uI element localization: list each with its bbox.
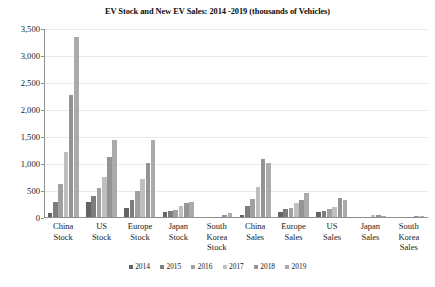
bars-layer — [44, 29, 428, 218]
legend-item[interactable]: 2017 — [223, 262, 244, 271]
legend-label: 2015 — [166, 262, 181, 271]
plot-area: 05001,0001,5002,0002,5003,0003,500 — [44, 29, 428, 218]
y-tick-mark — [41, 218, 44, 219]
x-axis-tick-label: USSales — [313, 221, 351, 242]
legend-swatch-icon — [191, 265, 195, 269]
legend-item[interactable]: 2014 — [129, 262, 150, 271]
bar — [250, 199, 255, 218]
x-axis-tick-label: SouthKoreaStock — [198, 221, 236, 253]
bar — [146, 163, 151, 218]
legend-item[interactable]: 2016 — [191, 262, 212, 271]
y-axis-tick-label: 0 — [36, 213, 40, 223]
bar — [151, 140, 156, 218]
bar — [135, 191, 140, 218]
legend-label: 2014 — [135, 262, 150, 271]
legend-swatch-icon — [223, 265, 227, 269]
bar — [304, 193, 309, 218]
legend-item[interactable]: 2015 — [160, 262, 181, 271]
bar — [53, 202, 58, 218]
y-axis-tick-label: 500 — [27, 186, 40, 196]
bar — [97, 188, 102, 219]
bar — [107, 157, 112, 218]
chart-container: EV Stock and New EV Sales: 2014 -2019 (t… — [0, 0, 435, 287]
bar-group — [313, 29, 351, 218]
y-axis-tick-label: 3,500 — [21, 24, 40, 34]
bar — [91, 196, 96, 218]
bar-group — [159, 29, 197, 218]
legend-swatch-icon — [160, 265, 164, 269]
bar-group — [121, 29, 159, 218]
x-axis-tick-label: USStock — [82, 221, 120, 242]
bar — [58, 184, 63, 218]
y-axis-tick-label: 1,500 — [21, 132, 40, 142]
x-axis-tick-label: ChinaStock — [44, 221, 82, 242]
x-axis-labels: ChinaStockUSStockEuropeStockJapanStockSo… — [44, 221, 428, 266]
y-axis-tick-label: 2,500 — [21, 78, 40, 88]
bar-group — [351, 29, 389, 218]
legend-label: 2018 — [260, 262, 275, 271]
bar — [256, 187, 261, 218]
legend-swatch-icon — [285, 265, 289, 269]
bar — [189, 202, 194, 218]
bar — [184, 203, 189, 218]
bar — [86, 202, 91, 218]
x-axis-line — [44, 217, 428, 218]
bar — [69, 95, 74, 218]
legend-label: 2016 — [198, 262, 213, 271]
legend-item[interactable]: 2018 — [254, 262, 275, 271]
bar-group — [82, 29, 120, 218]
bar-group — [236, 29, 274, 218]
y-axis-tick-label: 3,000 — [21, 51, 40, 61]
chart-legend: 201420152016201720182019 — [0, 262, 435, 271]
x-axis-tick-label: JapanSales — [351, 221, 389, 242]
legend-swatch-icon — [129, 265, 133, 269]
y-axis-tick-label: 2,000 — [21, 105, 40, 115]
bar — [338, 198, 343, 218]
bar-group — [44, 29, 82, 218]
bar — [74, 37, 79, 218]
bar — [294, 203, 299, 218]
legend-item[interactable]: 2019 — [285, 262, 306, 271]
bar — [299, 200, 304, 218]
legend-label: 2017 — [229, 262, 244, 271]
bar-group — [274, 29, 312, 218]
bar — [343, 200, 348, 218]
x-axis-tick-label: EuropeStock — [121, 221, 159, 242]
x-axis-tick-label: JapanStock — [159, 221, 197, 242]
legend-swatch-icon — [254, 265, 258, 269]
bar — [266, 163, 271, 218]
bar-group — [390, 29, 428, 218]
bar — [64, 152, 69, 218]
x-axis-tick-label: EuropeSales — [274, 221, 312, 242]
legend-label: 2019 — [292, 262, 307, 271]
bar-group — [198, 29, 236, 218]
bar — [130, 200, 135, 218]
bar — [112, 140, 117, 218]
bar — [261, 159, 266, 218]
bar — [140, 179, 145, 218]
y-axis-line — [44, 29, 45, 218]
x-axis-tick-label: ChinaSales — [236, 221, 274, 242]
y-axis-tick-label: 1,000 — [21, 159, 40, 169]
bar — [102, 177, 107, 218]
chart-title: EV Stock and New EV Sales: 2014 -2019 (t… — [0, 7, 435, 16]
x-axis-tick-label: SouthKoreaSales — [390, 221, 428, 253]
